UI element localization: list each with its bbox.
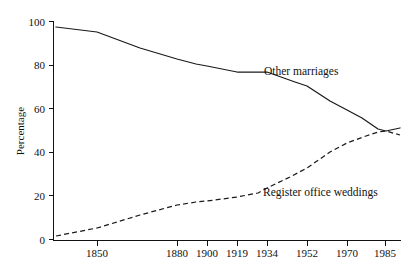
x-tick-label-1850: 1850: [86, 247, 109, 259]
series-line-register-office-weddings: [56, 131, 400, 236]
x-tick-label-1919: 1919: [226, 247, 249, 259]
x-tick-label-1934: 1934: [256, 247, 279, 259]
series-label-other-marriages: Other marriages: [264, 65, 339, 78]
x-tick-label-1970: 1970: [336, 247, 359, 259]
line-chart-canvas: 100 80 60 40 20 0 Percentage 1850 1880 1…: [0, 0, 420, 272]
y-axis-title: Percentage: [14, 107, 26, 155]
axis-group: [54, 22, 401, 241]
x-tick-label-1985: 1985: [374, 247, 397, 259]
y-tick-label-100: 100: [29, 16, 46, 28]
axis-lines: [54, 22, 401, 241]
series-line-other-marriages: [56, 27, 400, 131]
x-tick-label-1880: 1880: [166, 247, 189, 259]
x-tick-label-1900: 1900: [196, 247, 219, 259]
y-tick-label-20: 20: [34, 190, 46, 202]
y-tick-label-80: 80: [34, 59, 46, 71]
series-label-register-office-weddings: Register office weddings: [263, 186, 378, 199]
y-tick-marks: [49, 22, 54, 240]
x-tick-marks: [98, 241, 386, 246]
chart-figure: 100 80 60 40 20 0 Percentage 1850 1880 1…: [0, 0, 420, 272]
y-tick-label-0: 0: [40, 234, 46, 246]
y-tick-label-60: 60: [34, 103, 46, 115]
x-tick-labels: 1850 1880 1900 1919 1934 1952 1970 1985: [86, 247, 397, 259]
y-tick-labels: 100 80 60 40 20 0: [29, 16, 46, 246]
y-tick-label-40: 40: [34, 146, 46, 158]
x-tick-label-1952: 1952: [296, 247, 318, 259]
